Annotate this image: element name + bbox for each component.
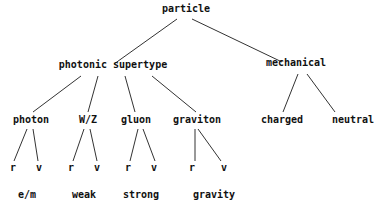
tree-diagram: particle photonic supertype mechanical p… (0, 0, 380, 214)
tree-edge (114, 19, 177, 64)
node-gluon: gluon (121, 114, 151, 126)
force-label-gravity: gravity (193, 189, 235, 201)
node-photon: photon (13, 114, 49, 126)
node-gluon-v: v (151, 162, 157, 174)
node-wz: W/Z (79, 114, 97, 126)
tree-edges (0, 0, 380, 214)
node-neutral: neutral (332, 114, 374, 126)
tree-edge (130, 129, 138, 161)
tree-edge (125, 76, 135, 112)
node-photon-v: v (36, 162, 42, 174)
tree-edge (143, 129, 155, 161)
tree-edge (307, 74, 335, 112)
tree-edge (33, 129, 38, 161)
tree-edge (73, 129, 84, 161)
tree-edge (88, 76, 98, 112)
force-label-weak: weak (72, 189, 96, 201)
node-photonic-supertype: photonic supertype (59, 59, 167, 71)
node-graviton-r: r (189, 162, 195, 174)
force-label-em: e/m (18, 189, 36, 201)
node-graviton-v: v (221, 162, 227, 174)
node-particle: particle (162, 3, 210, 15)
node-photon-r: r (10, 162, 16, 174)
tree-edge (90, 129, 97, 161)
node-wz-r: r (68, 162, 74, 174)
node-graviton: graviton (173, 114, 221, 126)
tree-edge (283, 74, 298, 112)
tree-edge (14, 129, 27, 161)
node-gluon-r: r (125, 162, 131, 174)
force-label-strong: strong (123, 189, 159, 201)
node-wz-v: v (94, 162, 100, 174)
tree-edge (192, 19, 282, 62)
tree-edge (152, 76, 196, 112)
node-mechanical: mechanical (266, 57, 326, 69)
node-charged: charged (261, 114, 303, 126)
tree-edge (33, 76, 81, 112)
tree-edge (198, 129, 221, 161)
